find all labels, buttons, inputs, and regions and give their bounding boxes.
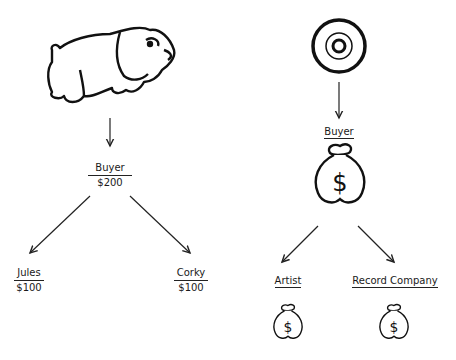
- left-buyer-node: Buyer $200: [88, 161, 132, 189]
- left-buyer-amount: $200: [88, 176, 132, 189]
- corky-node: Corky $100: [174, 266, 208, 294]
- buyer-money-bag-icon: [316, 144, 365, 202]
- jules-label: Jules: [14, 266, 44, 281]
- artist-node: Artist: [266, 274, 310, 287]
- corky-label: Corky: [174, 266, 208, 281]
- corky-amount: $100: [174, 281, 208, 294]
- right-buyer-label: Buyer: [324, 126, 353, 139]
- jules-amount: $100: [14, 281, 44, 294]
- record-disc-icon: [313, 20, 365, 72]
- record-company-money-bag-icon: [380, 305, 408, 339]
- record-company-node: Record Company: [350, 274, 440, 287]
- bulldog-icon: [48, 28, 174, 102]
- artist-money-bag-icon: [274, 305, 302, 339]
- jules-node: Jules $100: [14, 266, 44, 294]
- record-company-label: Record Company: [352, 275, 437, 288]
- left-buyer-label: Buyer: [88, 161, 132, 176]
- diagram-canvas: $: [0, 0, 456, 360]
- right-buyer-node: Buyer: [322, 125, 356, 138]
- artist-label: Artist: [275, 275, 302, 288]
